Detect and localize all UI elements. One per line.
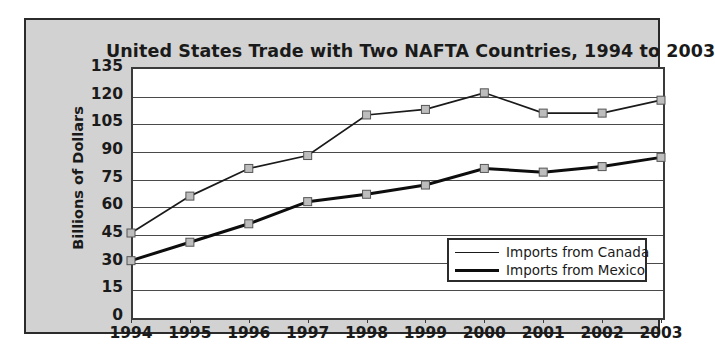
x-axis-tick-mark <box>367 318 368 323</box>
chart-legend: Imports from Canada Imports from Mexico <box>447 238 647 282</box>
data-point-marker <box>245 164 253 172</box>
data-point-marker <box>480 164 488 172</box>
data-point-marker <box>598 163 606 171</box>
data-point-marker <box>598 109 606 117</box>
legend-line-canada-icon <box>455 252 499 253</box>
x-axis-tick-mark <box>661 318 662 323</box>
data-point-marker <box>657 96 665 104</box>
data-point-marker <box>480 89 488 97</box>
y-axis-tick-label: 15 <box>63 280 123 296</box>
y-axis-tick-label: 0 <box>63 308 123 324</box>
y-axis-tick-label: 75 <box>63 170 123 186</box>
x-axis-tick-label: 2002 <box>572 326 632 342</box>
x-axis-tick-mark <box>484 318 485 323</box>
x-axis-tick-mark <box>249 318 250 323</box>
data-point-marker <box>539 168 547 176</box>
x-axis-tick-label: 1999 <box>395 326 455 342</box>
data-point-marker <box>657 153 665 161</box>
x-axis-tick-mark <box>308 318 309 323</box>
x-axis-tick-label: 1998 <box>337 326 397 342</box>
x-axis-tick-label: 2003 <box>631 326 691 342</box>
data-point-marker <box>539 109 547 117</box>
data-point-marker <box>421 181 429 189</box>
data-point-marker <box>363 190 371 198</box>
data-point-marker <box>127 257 135 265</box>
x-axis-tick-label: 2000 <box>454 326 514 342</box>
y-axis-tick-label: 105 <box>63 114 123 130</box>
y-axis-tick-label: 120 <box>63 87 123 103</box>
y-axis-tick-label: 30 <box>63 253 123 269</box>
data-point-marker <box>245 220 253 228</box>
y-axis-tick-label: 60 <box>63 197 123 213</box>
data-point-marker <box>186 192 194 200</box>
chart-title: United States Trade with Two NAFTA Count… <box>106 41 676 61</box>
legend-label-mexico: Imports from Mexico <box>506 262 645 278</box>
y-axis-tick-label: 45 <box>63 225 123 241</box>
x-axis-tick-mark <box>543 318 544 323</box>
series-line-canada <box>131 93 661 233</box>
y-axis-tick-label: 135 <box>63 59 123 75</box>
legend-item-mexico: Imports from Mexico <box>455 261 639 279</box>
data-point-marker <box>363 111 371 119</box>
x-axis-tick-label: 1995 <box>160 326 220 342</box>
data-point-marker <box>304 152 312 160</box>
x-axis-tick-label: 2001 <box>513 326 573 342</box>
x-axis-tick-mark <box>602 318 603 323</box>
legend-line-mexico-icon <box>455 269 499 272</box>
data-point-marker <box>421 105 429 113</box>
x-axis-tick-mark <box>425 318 426 323</box>
x-axis-tick-mark <box>190 318 191 323</box>
x-axis-tick-label: 1997 <box>278 326 338 342</box>
data-point-marker <box>186 238 194 246</box>
chart-panel: United States Trade with Two NAFTA Count… <box>24 18 660 334</box>
x-axis-tick-label: 1994 <box>101 326 161 342</box>
y-axis-tick-label: 90 <box>63 142 123 158</box>
legend-label-canada: Imports from Canada <box>506 244 649 260</box>
legend-item-canada: Imports from Canada <box>455 243 639 261</box>
data-point-marker <box>127 229 135 237</box>
data-point-marker <box>304 198 312 206</box>
x-axis-tick-label: 1996 <box>219 326 279 342</box>
x-axis-tick-mark <box>131 318 132 323</box>
